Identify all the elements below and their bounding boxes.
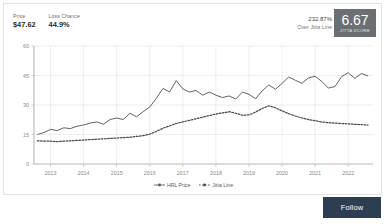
legend-item-hrl-price: HRL Price [154,182,190,188]
y-axis-tick-label: 30 [23,102,29,108]
stat-loss-chance-label: Loss Chance [49,13,80,20]
card-header: Price $47.62 Loss Chance 44.9% 232.87% O… [4,4,381,40]
x-axis-tick-label: 2019 [243,170,255,176]
stat-price-label: Price [13,13,36,20]
legend-item-jitta-line: Jitta Line [199,182,233,188]
jitta-score-value: 6.67 [341,13,368,28]
x-axis-tick-label: 2015 [111,170,123,176]
x-axis-tick-label: 2016 [144,170,156,176]
jitta-score-caption: JITTA SCORE [340,28,370,34]
stat-loss-chance: Loss Chance 44.9% [49,13,80,29]
x-axis-tick-label: 2022 [342,170,354,176]
jitta-score-badge: 6.67 JITTA SCORE [334,9,376,37]
over-jitta-caption: Over Jitta Line [297,23,332,31]
legend-label-jitta-line: Jitta Line [212,182,233,188]
jitta-stock-card: Price $47.62 Loss Chance 44.9% 232.87% O… [3,3,382,195]
y-axis-tick-label: 60 [23,43,29,49]
card-footer: Follow [3,196,385,221]
legend-dotted-marker-icon [199,182,210,188]
y-axis-tick-label: 0 [26,161,29,167]
x-axis-tick-label: 2017 [177,170,189,176]
series-line-hrl-price [37,73,368,135]
over-jitta-line-block: 232.87% Over Jitta Line [297,15,332,31]
follow-button[interactable]: Follow [323,197,381,218]
stat-price-value: $47.62 [13,20,36,29]
header-stats: Price $47.62 Loss Chance 44.9% [13,13,80,29]
legend-label-hrl-price: HRL Price [167,182,190,188]
stat-loss-chance-value: 44.9% [49,20,80,29]
y-axis-tick-label: 45 [23,73,29,79]
x-axis-tick-label: 2013 [45,170,57,176]
x-axis-tick-label: 2018 [210,170,222,176]
x-axis-tick-label: 2014 [78,170,90,176]
chart-svg: 0153045602013201420152016201720182019202… [4,38,383,190]
over-jitta-percent: 232.87% [297,15,332,23]
price-vs-jitta-line-chart: 0153045602013201420152016201720182019202… [4,38,383,190]
stat-price: Price $47.62 [13,13,36,29]
x-axis-tick-label: 2020 [276,170,288,176]
x-axis-tick-label: 2021 [309,170,321,176]
chart-legend: HRL Price Jitta Line [4,182,383,188]
legend-solid-marker-icon [154,182,165,188]
y-axis-tick-label: 15 [23,132,29,138]
